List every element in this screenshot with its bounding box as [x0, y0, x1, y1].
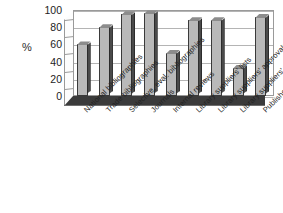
bar — [77, 44, 91, 96]
y-tick-label: 0 — [36, 92, 62, 100]
y-tick-label: 80 — [36, 23, 62, 31]
x-axis-category-labels: National bibliographiesTrade bibliograph… — [0, 106, 283, 213]
y-axis-tick-labels: 100806040200 — [36, 0, 62, 110]
y-axis-title: % — [22, 41, 32, 53]
bar-side-face — [87, 42, 91, 94]
bar-front-face — [77, 44, 88, 96]
y-tick-label: 20 — [36, 75, 62, 83]
y-tick-label: 40 — [36, 58, 62, 66]
y-tick-label: 60 — [36, 40, 62, 48]
bar-chart: % 100806040200 National bibliographiesTr… — [0, 0, 283, 213]
y-tick-label: 100 — [36, 6, 62, 14]
